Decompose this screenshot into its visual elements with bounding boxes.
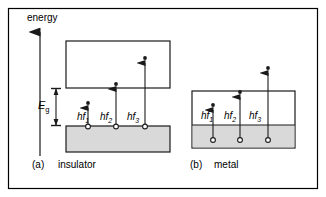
transition-label-sub: 1 bbox=[85, 117, 89, 124]
electron-marker bbox=[266, 66, 270, 70]
metal-occupied-states bbox=[193, 125, 295, 147]
insulator-transition-2-label: hf2 bbox=[100, 112, 112, 124]
hole-marker bbox=[238, 138, 243, 143]
electron-marker bbox=[114, 82, 118, 86]
hole-marker bbox=[114, 124, 119, 129]
diagram-canvas bbox=[0, 0, 326, 197]
band-gap-label: Eg bbox=[38, 100, 50, 114]
transition-label-sub: 2 bbox=[108, 117, 112, 124]
transition-label-sub: 1 bbox=[209, 116, 213, 123]
transition-label-sub: 3 bbox=[135, 117, 139, 124]
electron-marker bbox=[238, 90, 242, 94]
metal-transition-2-label: hf2 bbox=[224, 111, 236, 123]
panel-a-tag: (a) bbox=[32, 160, 44, 170]
transition-label-sub: 2 bbox=[232, 116, 236, 123]
insulator-transition-3-label: hf3 bbox=[127, 112, 139, 124]
insulator-valence-band bbox=[66, 126, 170, 152]
electron-marker bbox=[143, 56, 147, 60]
transition-label-sub: 3 bbox=[257, 116, 261, 123]
metal-transition-1-label: hf1 bbox=[201, 111, 213, 123]
band-diagram-figure: energy Eg hf1 hf2 hf3 hf1 hf2 hf3 (a) in… bbox=[0, 0, 326, 197]
hole-marker bbox=[86, 124, 91, 129]
electron-marker bbox=[86, 101, 90, 105]
hole-marker bbox=[143, 124, 148, 129]
band-gap-label-sub: g bbox=[45, 105, 49, 114]
electron-marker bbox=[211, 103, 215, 107]
panel-b-caption: metal bbox=[214, 160, 238, 170]
metal-transition-3-label: hf3 bbox=[249, 111, 261, 123]
insulator-conduction-band bbox=[66, 41, 170, 88]
insulator-transition-2 bbox=[114, 82, 119, 129]
insulator-transition-1-label: hf1 bbox=[77, 112, 89, 124]
panel-b-tag: (b) bbox=[190, 160, 202, 170]
hole-marker bbox=[266, 138, 271, 143]
panel-a-caption: insulator bbox=[58, 160, 96, 170]
energy-axis-label: energy bbox=[27, 13, 58, 23]
band-gap-dimension bbox=[51, 88, 61, 126]
hole-marker bbox=[211, 138, 216, 143]
